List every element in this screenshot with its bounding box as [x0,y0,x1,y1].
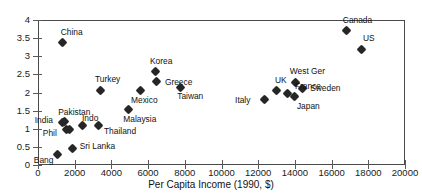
data-point-label: Sri Lanka [80,142,115,150]
data-point-label: Mexico [131,96,158,104]
y-tick-mark [33,56,42,57]
y-tick-mark [33,74,42,75]
data-point-label: India [35,116,53,124]
y-tick-mark [33,111,42,112]
data-point-label: Korea [150,57,172,65]
data-point-label: West Ger [290,67,325,75]
y-tick-label: 2 [0,88,30,98]
y-tick-mark [33,129,42,130]
y-tick-label: 0.5 [0,142,30,152]
scatter-chart: 00.511.522.533.54 0200040006000800010000… [0,0,422,196]
data-point-label: Turkey [95,75,120,83]
x-tick-label: 20000 [377,168,422,178]
data-point-label: France [295,82,321,90]
y-tick-mark [33,20,42,21]
y-tick-label: 3 [0,51,30,61]
y-tick-label: 2.5 [0,69,30,79]
y-tick-mark [33,147,42,148]
data-point-label: Malaysia [123,115,156,123]
y-tick-mark [33,93,42,94]
data-point-label: Taiwan [177,92,203,100]
data-point-label: Phil [43,129,57,137]
data-point-label: UK [275,76,287,84]
x-axis-title: Per Capita Income (1990, $) [0,180,422,190]
data-point-label: China [61,28,83,36]
y-tick-label: 1 [0,124,30,134]
data-point-label: Thailand [104,127,136,135]
data-point-label: Bang [34,156,54,164]
data-point-label: US [363,34,375,42]
y-tick-label: 4 [0,15,30,25]
data-point-label: Japan [297,102,320,110]
data-point-label: Canada [343,16,372,24]
y-tick-label: 1.5 [0,106,30,116]
data-point-label: Italy [235,96,250,104]
y-tick-mark [33,38,42,39]
y-tick-label: 3.5 [0,33,30,43]
